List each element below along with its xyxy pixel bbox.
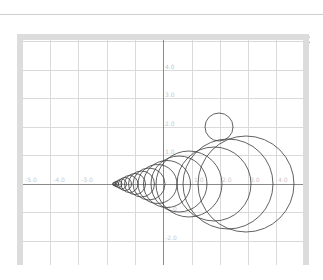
title-bar[interactable]: Gealop Vis2d — ☐ ✕ (0, 15, 323, 35)
plot-svg: -5.0 -4.0 -3.0 1.0 2.0 3.0 4.0 4.0 3.0 2… (23, 40, 303, 265)
axes (23, 40, 303, 265)
y-label-neg2: -2.0 (165, 234, 177, 241)
plot-canvas[interactable]: -5.0 -4.0 -3.0 1.0 2.0 3.0 4.0 4.0 3.0 2… (23, 40, 303, 265)
y-label-2: 2.0 (165, 120, 175, 127)
circles (113, 113, 295, 232)
y-label-4: 4.0 (165, 63, 175, 70)
x-label-2: 2.0 (222, 176, 232, 183)
x-label-neg5: -5.0 (25, 176, 37, 183)
x-label-4: 4.0 (278, 176, 288, 183)
x-label-neg3: -3.0 (81, 176, 93, 183)
y-label-1: 1.0 (165, 148, 175, 155)
x-label-neg4: -4.0 (53, 176, 65, 183)
y-label-3: 3.0 (165, 91, 175, 98)
x-label-3: 3.0 (250, 176, 260, 183)
